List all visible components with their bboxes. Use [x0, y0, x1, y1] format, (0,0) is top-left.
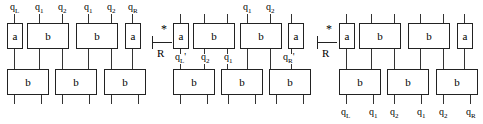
wire-label: q2: [390, 107, 399, 120]
gate-box[interactable]: b: [408, 23, 450, 49]
star-symbol: *: [161, 24, 167, 34]
star-symbol: *: [326, 24, 332, 34]
wire-stub: [247, 14, 248, 23]
gate-box[interactable]: b: [359, 23, 401, 49]
wire-label: qL: [10, 2, 19, 15]
wire-label: qL: [341, 107, 350, 120]
gate-box[interactable]: b: [193, 23, 235, 49]
turnstile-bar: [152, 42, 172, 43]
gate-box[interactable]: b: [387, 69, 429, 95]
wire-stub: [14, 14, 15, 23]
wire-stub: [443, 95, 444, 104]
wire-connector: [39, 49, 40, 69]
wire-label: qR': [283, 52, 294, 65]
wire-stub: [303, 95, 304, 104]
gate-box[interactable]: b: [7, 69, 49, 95]
wire-label: q1: [243, 2, 252, 15]
wire-label: q1: [84, 2, 93, 15]
wire-stub: [204, 14, 205, 23]
wire-connector: [270, 49, 271, 69]
wire-label: q2: [107, 2, 116, 15]
wire-stub: [180, 95, 181, 104]
wire-connector: [420, 49, 421, 69]
gate-box[interactable]: a: [125, 23, 141, 49]
wire-stub: [270, 14, 271, 23]
wire-connector: [443, 49, 444, 69]
wire-stub: [138, 95, 139, 104]
wire-connector: [111, 49, 112, 69]
gate-box[interactable]: b: [76, 23, 118, 49]
gate-box[interactable]: b: [221, 69, 263, 95]
wire-stub: [464, 14, 465, 23]
wire-connector: [464, 49, 465, 69]
relation-symbol: R: [322, 48, 329, 59]
wire-stub: [276, 95, 277, 104]
gate-box[interactable]: a: [7, 23, 23, 49]
gate-box[interactable]: b: [269, 69, 311, 95]
wire-connector: [371, 49, 372, 69]
wire-stub: [420, 14, 421, 23]
wire-label: q1: [35, 2, 44, 15]
diagram-canvas: qL q1 q2 q1 q2 qR a b b a b b b: [0, 0, 483, 124]
wire-stub: [421, 95, 422, 104]
turnstile-bar: [317, 42, 337, 43]
wire-connector: [346, 49, 347, 69]
wire-label: q2: [266, 2, 275, 15]
gate-box[interactable]: b: [436, 69, 478, 95]
gate-box[interactable]: a: [288, 23, 304, 49]
wire-stub: [62, 14, 63, 23]
gate-box[interactable]: a: [173, 23, 189, 49]
wire-stub: [371, 14, 372, 23]
gate-box[interactable]: b: [27, 23, 69, 49]
wire-connector: [247, 49, 248, 69]
gate-box[interactable]: a: [457, 23, 473, 49]
wire-label: qR: [128, 2, 138, 15]
wire-stub: [132, 14, 133, 23]
wire-stub: [88, 14, 89, 23]
wire-stub: [228, 95, 229, 104]
wire-label: q1: [224, 52, 233, 65]
wire-label: q2: [201, 52, 210, 65]
wire-stub: [291, 14, 292, 23]
wire-label: qR: [466, 107, 476, 120]
wire-stub: [470, 95, 471, 104]
wire-stub: [227, 14, 228, 23]
relation-symbol: R: [157, 48, 164, 59]
gate-box[interactable]: b: [173, 69, 215, 95]
wire-stub: [180, 14, 181, 23]
wire-connector: [88, 49, 89, 69]
wire-stub: [39, 14, 40, 23]
wire-label: q2: [439, 107, 448, 120]
gate-box[interactable]: b: [240, 23, 282, 49]
wire-stub: [394, 14, 395, 23]
wire-stub: [111, 14, 112, 23]
wire-label: q1: [417, 107, 426, 120]
wire-stub: [346, 95, 347, 104]
wire-label: q1: [369, 107, 378, 120]
wire-label: q2: [58, 2, 67, 15]
gate-box[interactable]: b: [339, 69, 381, 95]
wire-connector: [62, 49, 63, 69]
wire-label: qL': [175, 52, 186, 65]
gate-box[interactable]: a: [339, 23, 355, 49]
wire-stub: [89, 95, 90, 104]
wire-stub: [14, 95, 15, 104]
wire-stub: [373, 95, 374, 104]
wire-connector: [132, 49, 133, 69]
wire-stub: [62, 95, 63, 104]
wire-connector: [394, 49, 395, 69]
wire-connector: [14, 49, 15, 69]
wire-stub: [41, 95, 42, 104]
gate-box[interactable]: b: [104, 69, 146, 95]
wire-stub: [111, 95, 112, 104]
wire-stub: [394, 95, 395, 104]
wire-stub: [255, 95, 256, 104]
wire-stub: [346, 14, 347, 23]
gate-box[interactable]: b: [55, 69, 97, 95]
wire-stub: [443, 14, 444, 23]
wire-stub: [207, 95, 208, 104]
